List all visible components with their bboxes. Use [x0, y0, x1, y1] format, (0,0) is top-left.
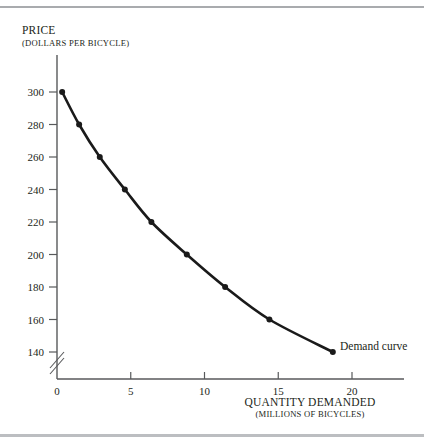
data-point-marker — [122, 187, 128, 193]
data-point-marker — [184, 252, 190, 258]
x-tick-label: 15 — [273, 385, 284, 397]
tick-marks — [49, 92, 352, 379]
data-point-marker — [330, 349, 336, 355]
data-point-marker — [266, 317, 272, 323]
plot-area — [0, 0, 424, 442]
x-tick-label: 20 — [347, 385, 358, 397]
y-tick-label: 200 — [28, 249, 45, 261]
data-point-marker — [76, 122, 82, 128]
demand-curve-line — [62, 92, 333, 352]
x-tick-label: 0 — [54, 385, 60, 397]
y-tick-label: 220 — [28, 216, 45, 228]
data-point-marker — [148, 219, 154, 225]
data-point-markers — [59, 89, 336, 355]
data-point-marker — [222, 284, 228, 290]
x-tick-label: 10 — [199, 385, 210, 397]
demand-curve-path — [62, 92, 333, 352]
y-tick-label: 300 — [28, 86, 45, 98]
x-tick-label: 5 — [128, 385, 134, 397]
y-tick-label: 180 — [28, 281, 45, 293]
y-tick-label: 160 — [28, 314, 45, 326]
data-point-marker — [97, 154, 103, 160]
axes-group — [50, 55, 404, 379]
y-tick-label: 280 — [28, 119, 45, 131]
data-point-marker — [59, 89, 65, 95]
y-tick-label: 240 — [28, 184, 45, 196]
y-tick-label: 260 — [28, 151, 45, 163]
demand-curve-figure: PRICE (DOLLARS PER BICYCLE) QUANTITY DEM… — [0, 0, 424, 442]
y-tick-label: 140 — [28, 346, 45, 358]
